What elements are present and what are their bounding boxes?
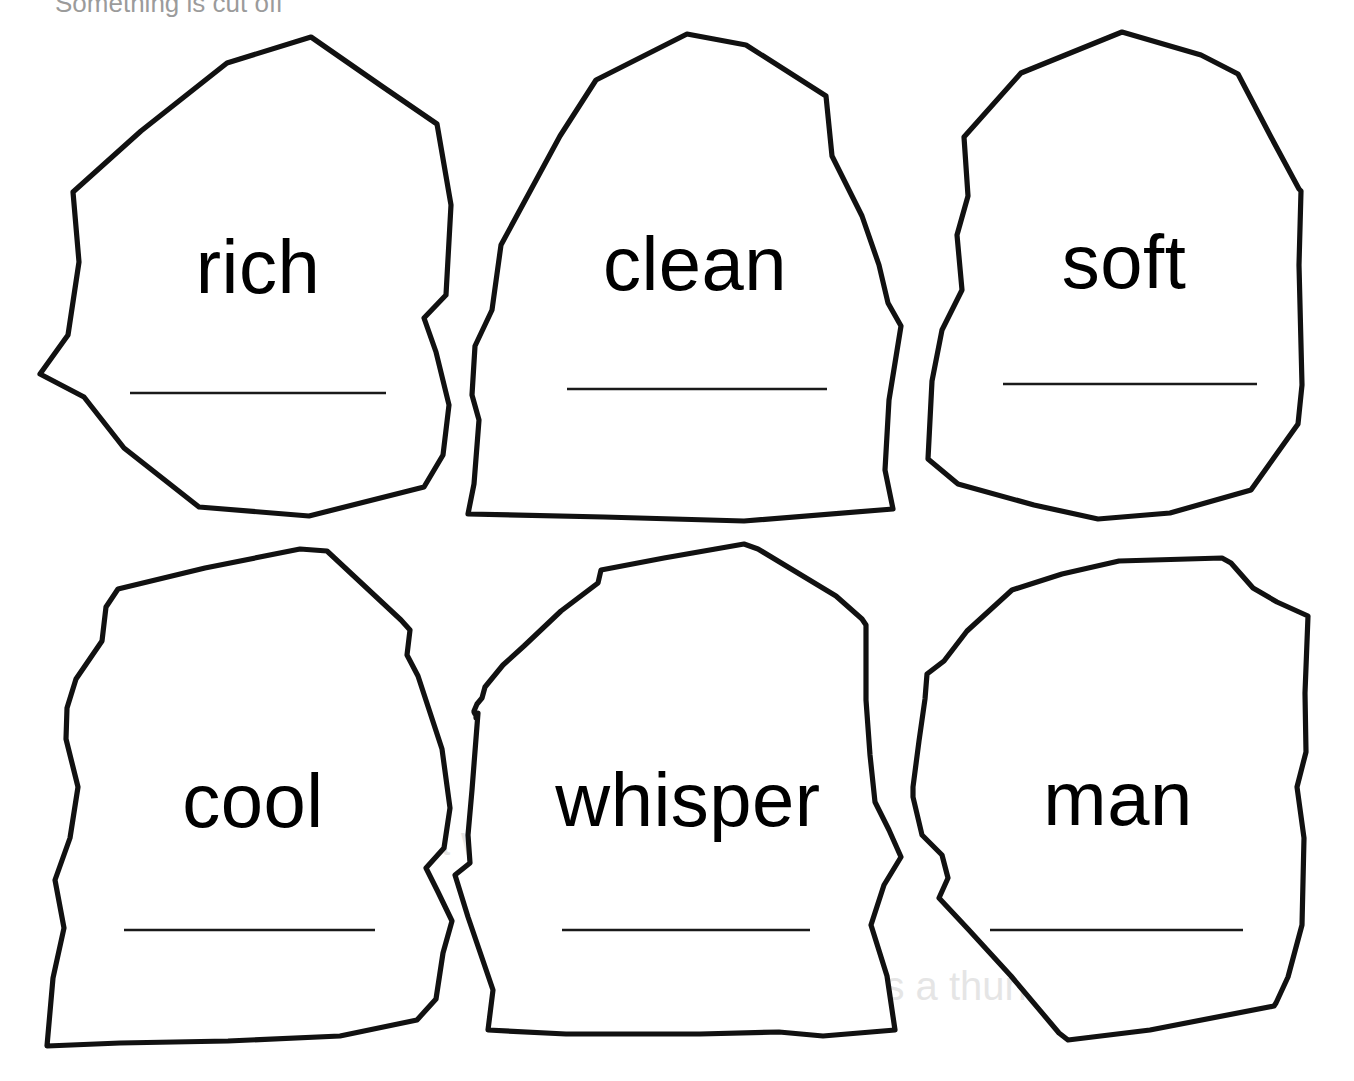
worksheet-canvas: a wonderful comparison as loud as a thun… [0,0,1354,1081]
word-label-clean: clean [603,221,787,306]
word-card-rich[interactable]: rich [40,37,451,516]
word-card-whisper[interactable]: whisper [455,544,901,1036]
word-label-rich: rich [196,224,320,309]
word-card-clean[interactable]: clean [468,34,901,521]
word-card-cool[interactable]: cool [47,549,452,1046]
word-label-cool: cool [182,758,323,843]
worksheet-page: a wonderful comparison as loud as a thun… [0,0,1354,1081]
word-label-man: man [1043,756,1192,841]
clipped-header-fragment: Something is cut off [55,0,284,18]
word-card-soft[interactable]: soft [928,32,1302,519]
word-label-whisper: whisper [554,757,820,842]
word-label-soft: soft [1062,219,1187,304]
